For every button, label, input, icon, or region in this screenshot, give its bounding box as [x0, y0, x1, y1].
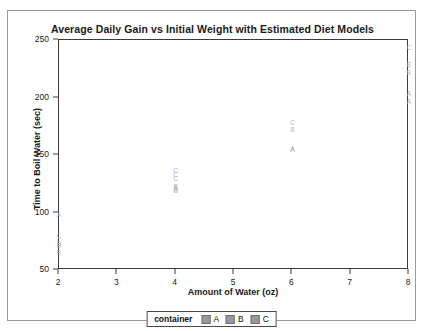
legend-item[interactable]: A — [201, 314, 219, 324]
data-point-marker: C — [407, 45, 412, 52]
y-tick-label: 200 — [35, 92, 49, 102]
y-axis: 50100150200250 — [8, 39, 58, 269]
y-tick-label: 100 — [35, 207, 49, 217]
legend-title: container — [154, 314, 192, 324]
plot-area: ACBBBCCCBAABCBAACBBAA — [58, 39, 408, 269]
data-point-marker: B — [57, 250, 61, 257]
legend-label: B — [238, 314, 244, 324]
legend-item[interactable]: B — [226, 314, 244, 324]
y-tick-label: 250 — [35, 34, 49, 44]
chart-panel: Average Daily Gain vs Initial Weight wit… — [7, 10, 416, 321]
data-point-marker: A — [407, 99, 411, 106]
x-tick-mark — [291, 269, 292, 274]
x-tick-mark — [58, 269, 59, 274]
x-tick-label: 4 — [172, 277, 177, 287]
legend-swatch — [251, 315, 260, 324]
data-point-marker: A — [57, 212, 61, 219]
data-point-marker: B — [407, 70, 411, 77]
legend-label: C — [263, 314, 269, 324]
data-point-marker: B — [290, 126, 294, 133]
y-tick-label: 150 — [35, 149, 49, 159]
legend-item[interactable]: C — [251, 314, 269, 324]
x-tick-label: 6 — [289, 277, 294, 287]
x-tick-label: 8 — [406, 277, 411, 287]
data-point-marker: A — [407, 91, 411, 98]
x-tick-mark — [233, 269, 234, 274]
data-point-marker: B — [173, 187, 177, 194]
x-tick-label: 3 — [114, 277, 119, 287]
legend-swatch — [226, 315, 235, 324]
x-tick-mark — [349, 269, 350, 274]
data-point-marker: C — [173, 176, 178, 183]
x-tick-mark — [174, 269, 175, 274]
x-tick-mark — [408, 269, 409, 274]
data-point-marker: A — [290, 147, 294, 154]
legend-label: A — [213, 314, 219, 324]
x-tick-label: 7 — [347, 277, 352, 287]
y-tick-label: 50 — [40, 264, 49, 274]
x-tick-label: 5 — [231, 277, 236, 287]
data-point-marker: B — [407, 62, 411, 69]
chart-title: Average Daily Gain vs Initial Weight wit… — [8, 23, 417, 35]
x-axis-title: Amount of Water (oz) — [58, 287, 408, 297]
legend: container ABC — [146, 311, 277, 327]
x-tick-mark — [116, 269, 117, 274]
data-point-marker: C — [57, 232, 62, 239]
legend-swatch — [201, 315, 210, 324]
data-points-layer: ACBBBCCCBAABCBAACBBAA — [59, 40, 407, 268]
x-tick-label: 2 — [56, 277, 61, 287]
